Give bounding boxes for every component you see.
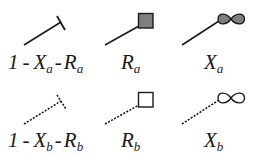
label-xb: Xb xyxy=(204,130,223,151)
label-x-sub: b xyxy=(217,139,224,154)
label-1-minus-xb-minus-rb: 1-Xb-Rb xyxy=(8,130,83,151)
empty-square-icon xyxy=(139,93,154,108)
label-r-sub: a xyxy=(77,61,84,76)
label-minus: - xyxy=(55,128,62,152)
symbol-xb xyxy=(182,93,245,124)
label-minus: - xyxy=(23,128,30,152)
label-minus: - xyxy=(55,50,62,74)
label-one: 1 xyxy=(8,50,19,74)
label-one: 1 xyxy=(8,128,19,152)
label-xa: Xa xyxy=(204,52,223,73)
label-x: X xyxy=(34,128,47,152)
symbol-xa xyxy=(182,14,245,45)
label-x: X xyxy=(204,128,217,152)
label-ra: Ra xyxy=(121,52,140,73)
label-r: R xyxy=(121,50,134,74)
label-r: R xyxy=(64,50,77,74)
dotted-t-bar-icon xyxy=(57,95,66,109)
symbol-rb xyxy=(105,93,153,125)
filled-figure-eight-icon xyxy=(218,14,245,24)
filled-square-icon xyxy=(139,14,154,29)
label-minus: - xyxy=(23,50,30,74)
label-r-sub: b xyxy=(134,139,141,154)
empty-figure-eight-icon xyxy=(218,93,245,103)
symbol-1-minus-xa-minus-ra xyxy=(24,16,65,45)
label-r-sub: b xyxy=(77,139,84,154)
label-r: R xyxy=(121,128,134,152)
symbol-1-minus-xb-minus-rb xyxy=(24,95,66,124)
label-x: X xyxy=(34,50,47,74)
symbol-ra xyxy=(105,14,153,46)
label-1-minus-xa-minus-ra: 1-Xa-Ra xyxy=(8,52,83,73)
label-rb: Rb xyxy=(121,130,140,151)
label-x-sub: b xyxy=(46,139,53,154)
label-x: X xyxy=(204,50,217,74)
label-r: R xyxy=(64,128,77,152)
label-r-sub: a xyxy=(134,61,141,76)
label-x-sub: a xyxy=(46,61,53,76)
label-x-sub: a xyxy=(217,61,224,76)
